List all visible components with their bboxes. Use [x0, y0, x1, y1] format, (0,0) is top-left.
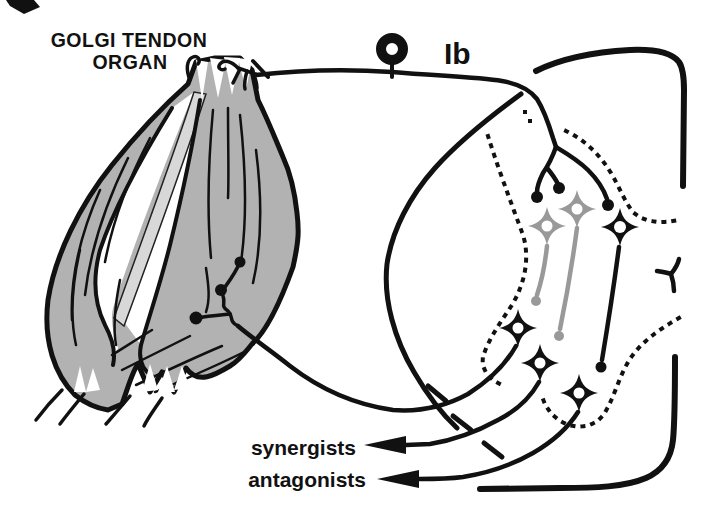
soma-nucleus: [574, 388, 585, 399]
antagonist-axon-arrow: [377, 412, 578, 488]
ib-cell-body: [381, 38, 403, 60]
synergists-label: synergists: [251, 436, 356, 459]
synergist-arrowhead: [364, 436, 406, 454]
diagram-canvas: GOLGI TENDON ORGAN Ib synergists antagon…: [0, 0, 718, 513]
soma-nucleus: [513, 323, 524, 334]
soma-nucleus: [614, 221, 626, 233]
excitatory-axon: [602, 247, 619, 360]
antagonist-arrowhead: [377, 470, 419, 488]
dotted-stub: [523, 110, 527, 114]
cord-dorsal-boundary: [536, 50, 684, 186]
inhibitory-bouton: [554, 331, 564, 341]
excitatory-bouton: [596, 362, 607, 373]
muscle: [36, 57, 298, 426]
soma-nucleus: [572, 204, 583, 215]
branch-symbol: [657, 259, 679, 291]
corner-artifact: [6, 0, 40, 14]
tendon-tail: [144, 398, 162, 426]
dotted-curve-left: [483, 136, 526, 386]
excitatory-interneuron: [596, 208, 640, 373]
inhibitory-interneurons: [528, 190, 596, 341]
inhibitory-axon: [537, 246, 547, 295]
golgi-tendon-organ-circuit-diagram: GOLGI TENDON ORGAN Ib synergists antagon…: [0, 0, 718, 513]
ib-afferent-axon: [256, 70, 556, 147]
slash-mark: [484, 443, 502, 457]
inhibitory-bouton: [531, 296, 541, 306]
tendon-tail: [36, 390, 62, 420]
ib-afferent-label: Ib: [444, 37, 471, 70]
soma-nucleus: [542, 221, 553, 232]
soma-nucleus: [535, 358, 546, 369]
cord-ventral-boundary: [480, 357, 675, 489]
spinal-cord-outline: [386, 50, 684, 489]
ib-branch: [547, 168, 558, 184]
gray-matter-boundary: [386, 94, 521, 428]
tendon-tail: [60, 394, 84, 424]
motor-axon-homonymous: [238, 326, 516, 410]
dotted-stub: [528, 119, 532, 123]
antagonists-label: antagonists: [248, 468, 366, 491]
diagram-title-line2: ORGAN: [92, 51, 167, 73]
motoneurons: [499, 309, 598, 412]
dotted-boundaries: [483, 110, 679, 427]
diagram-title-line1: GOLGI TENDON: [51, 29, 208, 51]
inhibitory-axon: [560, 228, 577, 329]
